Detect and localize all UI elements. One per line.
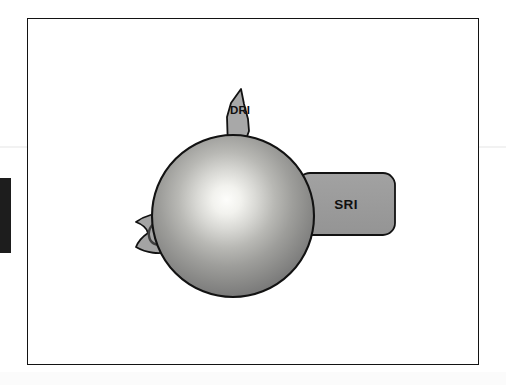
left-edge-scan-artifact [0,178,11,253]
scan-band-lower [0,372,506,385]
dri-label: DRI [230,104,250,116]
page-canvas: DRI SRI [0,0,506,385]
central-sphere-circle [152,135,314,297]
sri-label: SRI [334,197,358,212]
diagram-svg: DRI SRI [28,19,480,366]
figure-frame: DRI SRI [27,18,479,365]
central-sphere-group [152,135,314,297]
figure-canvas: DRI SRI [28,19,480,366]
